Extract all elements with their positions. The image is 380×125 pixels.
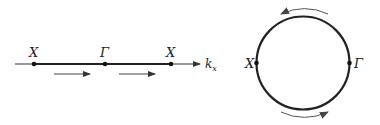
label-x-left: X [28,45,39,60]
circular-path-diagram: X Γ [244,9,364,118]
point-gamma-circle [347,61,352,66]
label-x-right: X [165,45,176,60]
arrow-top-ccw [281,9,328,14]
loop-circle [257,17,350,110]
label-gamma-circle: Γ [353,56,364,71]
linear-path-diagram: X Γ X kx [15,45,217,74]
point-x-left [32,62,37,67]
label-gamma: Γ [99,45,110,60]
diagram-canvas: X Γ X kx X Γ [0,0,380,125]
arrow-bottom-ccw [281,112,328,117]
point-x-right [169,62,174,67]
point-x [254,61,259,66]
point-gamma [103,62,108,67]
label-x-circle: X [244,56,255,71]
axis-label: kx [205,57,217,73]
